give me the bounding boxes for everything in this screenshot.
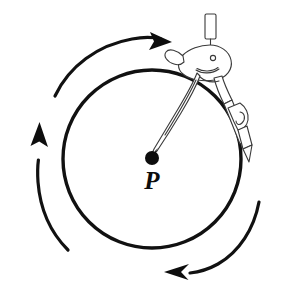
left-rotation-arrow-head — [31, 122, 49, 147]
center-point-dot — [145, 151, 159, 165]
compass-thumb-lug — [165, 50, 184, 65]
compass-needle-leg — [151, 73, 200, 156]
drawing-compass — [151, 14, 252, 162]
compass-circle-diagram: P — [0, 0, 281, 288]
top-rotation-arrow — [55, 32, 172, 96]
bottom-rotation-arrow — [164, 202, 259, 280]
top-rotation-arrow-head — [149, 32, 172, 50]
top-rotation-arrow-shaft — [55, 38, 161, 97]
figure-root: P — [0, 0, 281, 288]
compass-head-body — [179, 45, 232, 81]
bottom-rotation-arrow-head — [164, 264, 189, 280]
center-point-group: P — [143, 151, 160, 194]
compass-knob — [205, 14, 216, 39]
left-rotation-arrow — [31, 122, 69, 250]
center-point-label: P — [143, 167, 160, 194]
compass-pivot-dot — [210, 55, 215, 60]
